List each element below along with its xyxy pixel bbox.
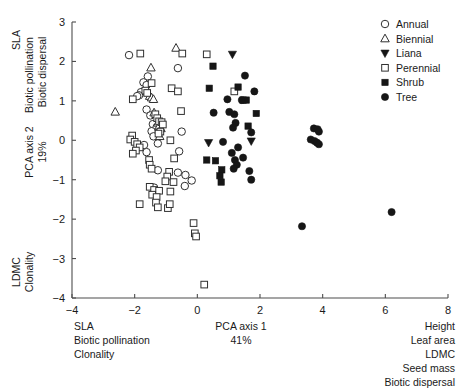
point-perennial: [166, 201, 173, 208]
point-biennial: [111, 107, 119, 115]
point-annual: [182, 171, 189, 178]
x-tick-label: −2: [128, 304, 141, 316]
y-axis-sublabel: 19%: [36, 141, 48, 162]
point-perennial: [203, 51, 210, 58]
point-perennial: [193, 233, 200, 240]
point-perennial: [160, 121, 167, 128]
point-annual: [154, 140, 161, 147]
point-perennial: [144, 90, 151, 97]
x-tick-label: 6: [382, 304, 388, 316]
point-perennial: [178, 108, 185, 115]
point-annual: [174, 169, 181, 176]
point-tree: [248, 176, 255, 183]
legend: AnnualBiennialLianaPerennialShrubTree: [381, 18, 441, 103]
legend-marker-tree: [381, 93, 388, 100]
point-perennial: [171, 155, 178, 162]
point-shrub: [235, 84, 241, 90]
point-perennial: [190, 220, 197, 227]
point-perennial: [170, 179, 177, 186]
point-tree: [239, 154, 246, 161]
y-tick-label: 0: [59, 134, 65, 146]
legend-label-liana: Liana: [396, 47, 422, 59]
point-tree: [298, 223, 305, 230]
point-shrub: [204, 157, 210, 163]
y-annotation-sla: SLA: [10, 30, 22, 50]
legend-label-tree: Tree: [396, 91, 417, 103]
point-tree: [315, 141, 322, 148]
point-perennial: [137, 50, 144, 57]
x-axis-sublabel: 41%: [230, 334, 251, 346]
point-tree: [241, 72, 248, 79]
point-annual: [143, 148, 150, 155]
axes: −4−202468−4−3−2−10123: [52, 16, 451, 316]
point-tree: [228, 149, 235, 156]
point-perennial: [156, 187, 163, 194]
x-tick-label: −4: [66, 304, 79, 316]
point-annual: [175, 148, 182, 155]
point-perennial: [175, 88, 182, 95]
pca-scatter-figure: −4−202468−4−3−2−10123 AnnualBiennialLian…: [0, 0, 461, 390]
point-perennial: [155, 130, 162, 137]
x-tick-label: 2: [257, 304, 263, 316]
point-annual: [178, 128, 185, 135]
point-perennial: [148, 80, 155, 87]
x-tick-label: 0: [194, 304, 200, 316]
point-tree: [219, 138, 226, 145]
x-axis-label: PCA axis 1: [215, 320, 267, 332]
point-shrub: [245, 123, 251, 129]
legend-marker-perennial: [382, 64, 389, 71]
point-tree: [238, 96, 245, 103]
point-tree: [251, 88, 258, 95]
point-liana: [205, 140, 213, 147]
point-perennial: [129, 96, 136, 103]
point-annual: [188, 177, 195, 184]
y-tick-label: −3: [52, 253, 65, 265]
legend-label-perennial: Perennial: [396, 62, 440, 74]
legend-marker-shrub: [382, 79, 388, 85]
point-perennial: [167, 188, 174, 195]
point-perennial: [168, 85, 175, 92]
legend-label-shrub: Shrub: [396, 76, 424, 88]
point-tree: [224, 96, 231, 103]
x-tick-label: 4: [320, 304, 326, 316]
point-tree: [315, 128, 322, 135]
point-shrub: [206, 85, 212, 91]
y-annotation-ldmc: LDMC: [10, 257, 22, 287]
point-annual: [174, 64, 181, 71]
point-tree: [388, 208, 395, 215]
point-shrub: [253, 110, 259, 116]
point-perennial: [129, 150, 136, 157]
y-annotation-biotic-dispersal: Biotic dispersal: [36, 37, 48, 108]
legend-label-biennial: Biennial: [396, 33, 433, 45]
point-shrub: [219, 167, 225, 173]
point-shrub: [218, 179, 224, 185]
point-annual: [125, 51, 132, 58]
point-shrub: [210, 63, 216, 69]
y-tick-label: −4: [52, 292, 65, 304]
legend-label-annual: Annual: [396, 18, 429, 30]
y-axis-label: PCA axis 2: [23, 126, 35, 178]
x-annotation-left-0: SLA: [74, 320, 94, 332]
axis-annotations: SLABiotic pollinationBiotic dispersalPCA…: [10, 30, 455, 388]
x-annotation-right-3: Seed mass: [402, 362, 455, 374]
y-tick-label: −1: [52, 174, 65, 186]
point-tree: [230, 165, 237, 172]
x-annotation-right-4: Biotic dispersal: [384, 376, 455, 388]
point-tree: [248, 129, 255, 136]
point-perennial: [148, 165, 155, 172]
point-perennial: [136, 201, 143, 208]
x-tick-label: 8: [445, 304, 451, 316]
point-perennial: [162, 178, 169, 185]
point-annual: [181, 182, 188, 189]
series-tree: [210, 72, 395, 230]
point-liana: [228, 51, 236, 58]
x-annotation-right-0: Height: [425, 320, 455, 332]
y-annotation-biotic-pollination: Biotic pollination: [23, 37, 35, 113]
y-tick-label: 2: [59, 55, 65, 67]
point-biennial: [147, 63, 155, 71]
x-annotation-left-2: Clonality: [74, 348, 115, 360]
point-tree: [229, 124, 236, 131]
point-perennial: [201, 281, 208, 288]
legend-marker-liana: [381, 50, 389, 57]
data-points: [111, 44, 395, 288]
